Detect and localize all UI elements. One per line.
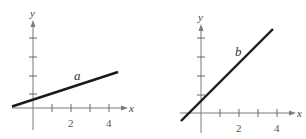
line-b bbox=[181, 29, 273, 121]
x-axis-arrow-icon bbox=[289, 111, 296, 116]
x-tick-label-2: 2 bbox=[68, 117, 74, 129]
graph-b: y x 2 4 b bbox=[180, 11, 302, 134]
x-tick-label-2: 2 bbox=[236, 122, 242, 134]
figure: y x 2 4 a y x 2 4 b bbox=[0, 0, 306, 139]
line-b-label: b bbox=[235, 44, 242, 59]
line-a bbox=[12, 72, 118, 107]
line-a-label: a bbox=[74, 68, 81, 83]
x-tick-label-4: 4 bbox=[106, 117, 112, 129]
x-axis-arrow-icon bbox=[121, 106, 128, 111]
x-axis-label: x bbox=[128, 102, 134, 114]
y-axis-arrow-icon bbox=[199, 24, 204, 31]
x-axis-label: x bbox=[296, 107, 302, 119]
y-axis-label: y bbox=[197, 11, 203, 23]
y-axis-label: y bbox=[29, 7, 35, 19]
y-axis-arrow-icon bbox=[31, 20, 36, 27]
x-tick-label-4: 4 bbox=[274, 122, 280, 134]
graph-a: y x 2 4 a bbox=[12, 7, 134, 130]
